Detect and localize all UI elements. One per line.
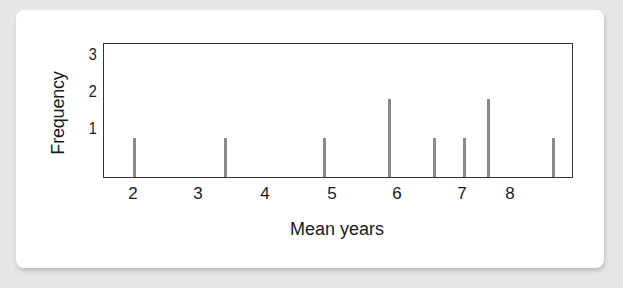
x-tick-8: 8 <box>500 184 520 204</box>
y-tick-2: 2 <box>89 82 97 102</box>
x-axis-label: Mean years <box>290 219 384 240</box>
x-tick-2: 2 <box>123 184 143 204</box>
bar-8-7 <box>552 138 555 177</box>
x-tick-7: 7 <box>452 184 472 204</box>
x-tick-3: 3 <box>188 184 208 204</box>
bar-7-0 <box>463 138 466 177</box>
bar-7-4 <box>487 99 490 177</box>
bar-6-5 <box>433 138 436 177</box>
x-tick-4: 4 <box>255 184 275 204</box>
plot-area <box>103 43 573 178</box>
y-axis-label: Frequency <box>48 71 69 154</box>
bar-2-0 <box>133 138 136 177</box>
bar-4-9 <box>323 138 326 177</box>
x-tick-5: 5 <box>322 184 342 204</box>
bar-3-4 <box>224 138 227 177</box>
y-tick-1: 1 <box>89 119 97 139</box>
y-tick-3: 3 <box>89 45 97 65</box>
x-tick-6: 6 <box>387 184 407 204</box>
bar-5-9 <box>388 99 391 177</box>
